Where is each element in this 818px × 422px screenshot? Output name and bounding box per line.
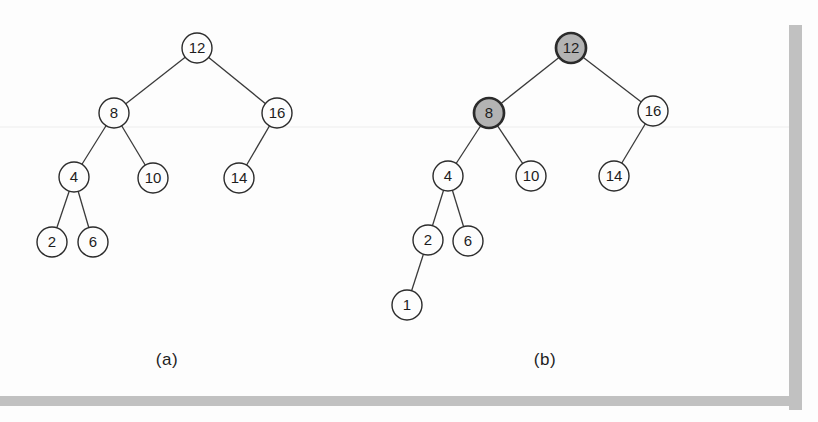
node-value: 10 <box>523 167 540 184</box>
figure-b-caption: (b) <box>513 350 577 370</box>
node-value: 4 <box>444 167 452 184</box>
page-frame-bottom-bar <box>0 396 802 406</box>
page-frame-right-bar <box>789 25 802 410</box>
node-value: 2 <box>48 233 56 250</box>
node-value: 12 <box>189 39 206 56</box>
scan-artifact-line <box>0 126 789 128</box>
node-value: 16 <box>645 102 662 119</box>
node-value: 14 <box>606 167 623 184</box>
node-value: 12 <box>563 39 580 56</box>
node-value: 16 <box>269 104 286 121</box>
node-value: 4 <box>70 168 78 185</box>
node-value: 8 <box>485 104 493 121</box>
scanned-figure-page: 1281641014261281641014261 (a) (b) <box>0 0 818 422</box>
node-value: 2 <box>424 231 432 248</box>
node-value: 8 <box>110 104 118 121</box>
node-value: 6 <box>89 233 97 250</box>
tree-figure-a: 128164101426 <box>37 33 292 257</box>
node-value: 1 <box>403 296 411 313</box>
tree-figure-b: 1281641014261 <box>392 33 668 320</box>
node-value: 14 <box>231 169 248 186</box>
tree-edge-12-8 <box>114 48 197 113</box>
node-value: 6 <box>464 232 472 249</box>
node-value: 10 <box>145 169 162 186</box>
figure-a-caption: (a) <box>135 350 199 370</box>
tree-diagram-canvas: 1281641014261281641014261 <box>0 0 818 422</box>
